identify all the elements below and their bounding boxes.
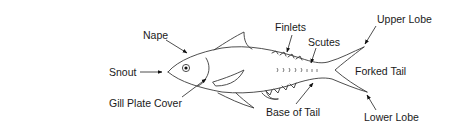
scutes-arrow (311, 48, 316, 63)
pectoral-fin (213, 70, 244, 86)
base-of-tail-arrow (296, 83, 313, 104)
lower-lobe-arrow (367, 95, 376, 110)
eye-pupil (184, 66, 187, 69)
label-scutes: Scutes (308, 37, 340, 48)
fish-anatomy-diagram: Nape Snout Gill Plate Cover Finlets Scut… (0, 0, 455, 129)
finlets-arrow (287, 35, 292, 52)
label-lower-lobe: Lower Lobe (364, 112, 419, 123)
upper-finlets (272, 51, 302, 60)
label-nape: Nape (143, 30, 168, 41)
label-base-of-tail: Base of Tail (266, 107, 320, 118)
upper-lobe-arrow (365, 26, 376, 44)
label-upper-lobe: Upper Lobe (377, 14, 432, 25)
label-snout: Snout (109, 67, 136, 78)
gill-plate (198, 58, 209, 86)
label-forked-tail: Forked Tail (355, 66, 406, 77)
nape-arrow (166, 40, 187, 53)
lower-finlets (266, 83, 296, 99)
scutes (277, 68, 317, 72)
anal-fin (218, 93, 254, 108)
label-finlets: Finlets (275, 22, 306, 33)
label-gill-plate-cover: Gill Plate Cover (109, 98, 182, 109)
